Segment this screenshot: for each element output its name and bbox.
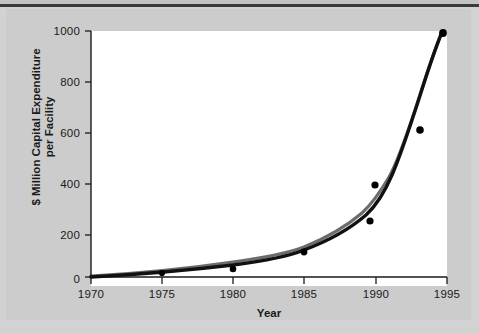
- data-point: [301, 249, 308, 256]
- x-axis-title: Year: [91, 307, 447, 319]
- data-point: [159, 270, 165, 276]
- data-point: [230, 266, 237, 273]
- x-tick-label-1975: 1975: [134, 288, 190, 300]
- y-tick-marks: [85, 31, 91, 277]
- data-point: [439, 29, 447, 37]
- x-tick-marks: [91, 277, 447, 284]
- figure-page: 0 200 400 600 800 1000 1970 1975 1980 19…: [0, 0, 479, 334]
- y-axis-title: $ Million Capital Expenditure per Facili…: [30, 27, 56, 227]
- data-point: [371, 181, 378, 188]
- fit-curve-b: [91, 32, 442, 276]
- page-horizontal-rule: [0, 4, 479, 7]
- y-axis-title-line-2: per Facility: [43, 27, 56, 227]
- chart-figure-panel: 0 200 400 600 800 1000 1970 1975 1980 19…: [6, 9, 471, 320]
- y-axis-title-line-1: $ Million Capital Expenditure: [30, 27, 43, 227]
- y-tick-label-0: 0: [36, 273, 80, 285]
- data-points: [159, 29, 447, 276]
- y-tick-label-200: 200: [36, 229, 80, 241]
- x-tick-label-1970: 1970: [63, 288, 119, 300]
- x-tick-label-1980: 1980: [205, 288, 261, 300]
- x-tick-label-1990: 1990: [348, 288, 404, 300]
- x-tick-label-1995: 1995: [419, 288, 475, 300]
- fit-curves: [91, 32, 442, 277]
- fit-curve-a: [91, 32, 442, 277]
- x-tick-label-1985: 1985: [276, 288, 332, 300]
- data-point: [366, 217, 373, 224]
- axis-lines: [91, 31, 447, 277]
- data-point: [416, 126, 424, 134]
